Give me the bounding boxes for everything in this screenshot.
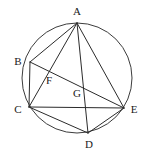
chord-de <box>88 108 124 133</box>
point-label-b: B <box>14 55 21 67</box>
point-label-d: D <box>85 138 93 150</box>
geometry-figure-canvas: A B C D E F G <box>0 0 143 154</box>
chord-ce <box>29 107 124 108</box>
point-label-a: A <box>73 5 81 17</box>
chord-ab <box>30 23 77 62</box>
point-label-g: G <box>73 87 81 99</box>
point-label-f: F <box>46 74 52 86</box>
chord-group <box>29 23 124 133</box>
chord-be <box>30 62 124 108</box>
point-label-e: E <box>131 103 138 115</box>
circumscribed-circle <box>22 23 132 133</box>
geometry-diagram: A B C D E F G <box>0 0 143 154</box>
point-label-c: C <box>14 103 21 115</box>
chord-bc <box>29 62 30 107</box>
label-group: A B C D E F G <box>14 5 137 150</box>
chord-cd <box>29 107 88 133</box>
